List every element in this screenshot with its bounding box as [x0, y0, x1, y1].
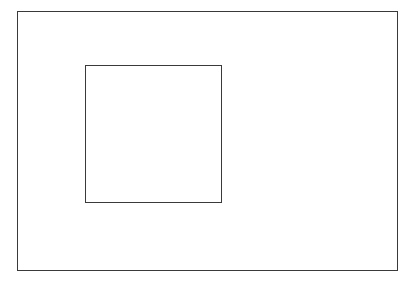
diagram-canvas	[0, 0, 412, 282]
inner-rectangle	[85, 65, 222, 203]
